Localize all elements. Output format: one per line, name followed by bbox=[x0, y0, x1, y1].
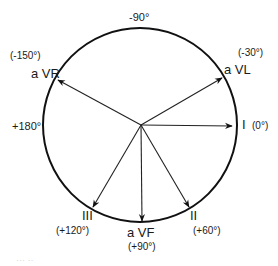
lead-avr-label: a VR bbox=[31, 67, 60, 80]
lead-vector-avl bbox=[141, 78, 222, 125]
lead-i-label: I bbox=[242, 118, 246, 131]
lead-avl-label: a VL bbox=[224, 63, 251, 76]
footer-faint-text: ··· ·· bbox=[16, 256, 34, 265]
lead-ii-angle: (+60°) bbox=[193, 226, 221, 236]
lead-avf-label: a VF bbox=[127, 226, 154, 239]
lead-vector-avr bbox=[58, 80, 141, 125]
lead-iii-label: III bbox=[82, 209, 93, 222]
lead-iii-angle: (+120°) bbox=[56, 226, 89, 236]
lead-i-angle: (0°) bbox=[252, 121, 268, 131]
lead-avl-angle: (-30°) bbox=[238, 48, 263, 58]
lead-vector-ii bbox=[141, 125, 189, 207]
lead-vectors bbox=[58, 78, 232, 221]
axis-label-left: +180° bbox=[12, 121, 41, 132]
lead-vector-i bbox=[141, 125, 232, 126]
lead-avf-angle: (+90°) bbox=[128, 242, 156, 252]
lead-ii-label: II bbox=[190, 209, 197, 222]
lead-avr-angle: (-150°) bbox=[10, 51, 41, 61]
lead-vector-avf bbox=[141, 125, 142, 221]
axis-label-top: -90° bbox=[129, 12, 149, 23]
lead-vector-iii bbox=[93, 125, 141, 207]
